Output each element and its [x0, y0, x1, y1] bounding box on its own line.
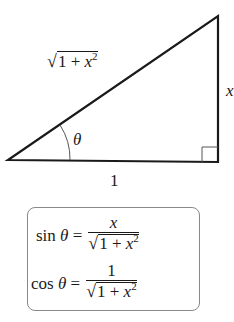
angle-arc — [60, 125, 70, 160]
cos-formula: cos θ = 1 √1 + x2 — [31, 262, 137, 300]
cos-numerator: 1 — [107, 262, 116, 280]
sin-fraction: x √1 + x2 — [88, 214, 139, 252]
hypotenuse-label: √1 + x2 — [47, 52, 98, 70]
cos-lhs: cos θ = — [31, 274, 80, 294]
sin-denominator: √1 + x2 — [88, 232, 139, 252]
sin-lhs: sin θ = — [36, 226, 82, 246]
radical-sign: √ — [88, 234, 98, 252]
right-triangle — [8, 16, 218, 162]
radical-sign: √ — [47, 51, 57, 71]
radicand: 1 + x2 — [58, 52, 98, 71]
cos-fraction: 1 √1 + x2 — [86, 262, 137, 300]
radicand-base: 1 + x — [99, 234, 133, 253]
right-angle-marker — [202, 147, 218, 162]
cos-denominator: √1 + x2 — [86, 280, 137, 300]
exponent: 2 — [131, 280, 137, 292]
sin-formula: sin θ = x √1 + x2 — [36, 214, 139, 252]
radical-sign: √ — [86, 282, 96, 300]
exponent: 2 — [133, 232, 139, 244]
opposite-label: x — [226, 82, 234, 99]
adjacent-label: 1 — [110, 172, 119, 189]
sin-numerator: x — [110, 214, 118, 232]
exponent: 2 — [92, 50, 98, 62]
radicand-base: 1 + x — [58, 52, 92, 71]
angle-label: θ — [73, 131, 81, 148]
radicand-base: 1 + x — [97, 282, 131, 301]
